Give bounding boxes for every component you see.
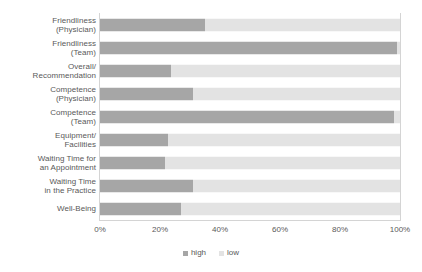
bar-row-label: Friendliness (Team): [0, 38, 96, 57]
bar-row-label: Competence (Team): [0, 107, 96, 126]
bar-row: Competence (Team): [0, 105, 422, 128]
stacked-bar-chart: Friendliness (Physician)Friendliness (Te…: [0, 0, 422, 272]
bar-row-label: Friendliness (Physician): [0, 15, 96, 34]
legend-swatch-icon: [219, 251, 224, 256]
legend-swatch-icon: [183, 251, 188, 256]
bar-segment-low: [181, 202, 400, 215]
bar-row-label: Equipment/ Facilities: [0, 130, 96, 149]
bar-segment-high: [100, 156, 165, 169]
bar-row: Equipment/ Facilities: [0, 128, 422, 151]
bar-track: [100, 179, 400, 192]
bar-rows: Friendliness (Physician)Friendliness (Te…: [0, 13, 422, 220]
bar-track: [100, 64, 400, 77]
bar-segment-low: [171, 64, 401, 77]
legend-item-low: low: [219, 248, 239, 258]
x-axis-tick-labels: 0%20%40%60%80%100%: [100, 224, 400, 236]
bar-row: Well-Being: [0, 197, 422, 220]
legend-label: low: [227, 248, 239, 258]
legend-item-high: high: [183, 248, 206, 258]
bar-track: [100, 87, 400, 100]
bar-row: Waiting Time in the Practice: [0, 174, 422, 197]
chart-legend: highlow: [0, 248, 422, 258]
bar-segment-low: [193, 179, 400, 192]
x-tick-label: 80%: [332, 224, 348, 235]
bar-segment-high: [100, 64, 171, 77]
bar-track: [100, 202, 400, 215]
bar-row: Friendliness (Team): [0, 36, 422, 59]
bar-segment-high: [100, 133, 168, 146]
bar-track: [100, 41, 400, 54]
x-tick-label: 100%: [390, 224, 410, 235]
bar-segment-low: [394, 110, 400, 123]
x-tick-label: 0%: [94, 224, 106, 235]
x-tick-label: 20%: [152, 224, 168, 235]
bar-segment-high: [100, 87, 193, 100]
bar-segment-high: [100, 41, 397, 54]
bar-segment-high: [100, 18, 205, 31]
bar-track: [100, 133, 400, 146]
bar-track: [100, 156, 400, 169]
bar-row-label: Waiting Time in the Practice: [0, 176, 96, 195]
bar-segment-low: [397, 41, 400, 54]
bar-row: Competence (Physician): [0, 82, 422, 105]
bar-row-label: Well-Being: [0, 204, 96, 213]
bar-segment-high: [100, 110, 394, 123]
bar-row-label: Overall/ Recommendation: [0, 61, 96, 80]
bar-row-label: Competence (Physician): [0, 84, 96, 103]
bar-row: Friendliness (Physician): [0, 13, 422, 36]
bar-segment-low: [205, 18, 400, 31]
bar-row: Overall/ Recommendation: [0, 59, 422, 82]
bar-row-label: Waiting Time for an Appointment: [0, 153, 96, 172]
bar-segment-low: [165, 156, 401, 169]
bar-segment-low: [193, 87, 400, 100]
bar-segment-low: [168, 133, 401, 146]
bar-segment-high: [100, 179, 193, 192]
bar-segment-high: [100, 202, 181, 215]
bar-track: [100, 110, 400, 123]
x-tick-label: 60%: [272, 224, 288, 235]
bar-track: [100, 18, 400, 31]
x-tick-label: 40%: [212, 224, 228, 235]
bar-row: Waiting Time for an Appointment: [0, 151, 422, 174]
legend-label: high: [191, 248, 206, 258]
